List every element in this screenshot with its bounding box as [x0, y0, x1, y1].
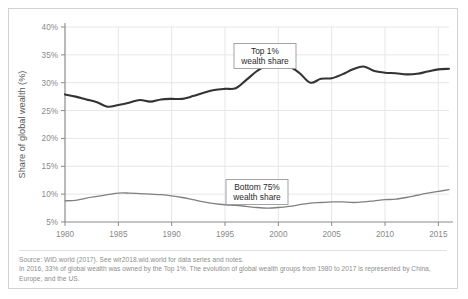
y-tick-label: 25%: [42, 107, 58, 116]
x-tick-label: 2005: [323, 230, 342, 239]
top1-label-line2: wealth share: [240, 56, 289, 66]
y-tick-label: 15%: [42, 162, 58, 171]
line-chart: 5%10%15%20%25%30%35%40% 1980198519901995…: [9, 9, 457, 247]
note-line: In 2016, 33% of global wealth was owned …: [19, 264, 447, 283]
figure-footer: Source: WID.world (2017). See wir2018.wi…: [9, 247, 457, 288]
x-tick-label: 1980: [56, 230, 75, 239]
x-tick-label: 1985: [109, 230, 128, 239]
y-axis-ticks-group: 5%10%15%20%25%30%35%40%: [42, 23, 65, 227]
y-tick-label: 20%: [42, 134, 58, 143]
top1-label-line1: Top 1%: [251, 46, 279, 56]
x-tick-label: 2000: [269, 230, 288, 239]
figure-card: 5%10%15%20%25%30%35%40% 1980198519901995…: [8, 8, 458, 289]
bottom75-label-line1: Bottom 75%: [234, 182, 280, 192]
y-tick-label: 40%: [42, 23, 58, 32]
chart-plot-container: 5%10%15%20%25%30%35%40% 1980198519901995…: [9, 9, 457, 247]
y-tick-label: 35%: [42, 51, 58, 60]
footer-divider: [19, 250, 447, 251]
y-tick-label: 5%: [46, 218, 58, 227]
y-tick-label: 30%: [42, 79, 58, 88]
source-line: Source: WID.world (2017). See wir2018.wi…: [19, 255, 447, 264]
y-tick-label: 10%: [42, 190, 58, 199]
annotations-group: Top 1%wealth shareBottom 75%wealth share: [226, 44, 296, 205]
x-tick-label: 2010: [376, 230, 395, 239]
bottom75-label-line2: wealth share: [232, 192, 281, 202]
x-tick-label: 1990: [163, 230, 182, 239]
series-line: [65, 65, 449, 107]
x-axis-ticks-group: 19801985199019952000200520102015: [56, 222, 448, 239]
x-tick-label: 2015: [429, 230, 448, 239]
x-tick-label: 1995: [216, 230, 235, 239]
y-axis-title: Share of global wealth (%): [17, 71, 27, 179]
